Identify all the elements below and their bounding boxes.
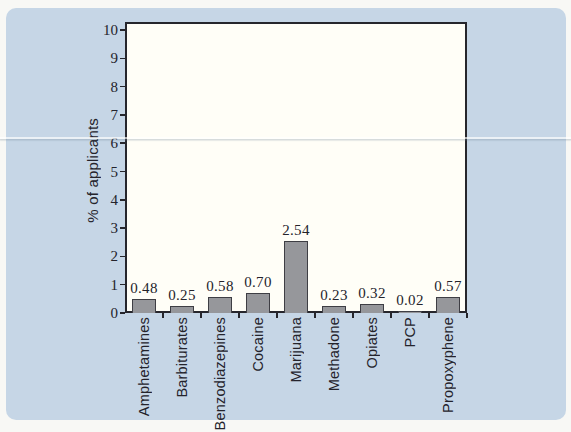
bar-value-label: 2.54	[266, 222, 326, 239]
x-tick-mark	[238, 313, 240, 318]
x-tick-mark	[314, 313, 316, 318]
category-label: Benzodiazepines	[211, 317, 229, 430]
x-tick-mark	[352, 313, 354, 318]
category-label: Opiates	[363, 317, 381, 368]
x-tick-mark	[428, 313, 430, 318]
y-tick-label: 4	[86, 190, 118, 210]
x-tick-mark	[390, 313, 392, 318]
bar	[170, 306, 194, 313]
y-tick-label: 0	[86, 303, 118, 323]
category-label: Amphetamines	[135, 317, 153, 416]
y-tick-label: 10	[86, 20, 118, 40]
x-tick-mark	[276, 313, 278, 318]
y-tick-mark	[120, 171, 126, 173]
category-label: Marijuana	[287, 317, 305, 382]
y-tick-label: 7	[86, 105, 118, 125]
bar	[322, 306, 346, 313]
y-tick-mark	[120, 312, 126, 314]
bar-value-label: 0.57	[418, 278, 478, 295]
bar	[436, 297, 460, 313]
y-tick-mark	[120, 256, 126, 258]
y-tick-mark	[120, 114, 126, 116]
category-label: PCP	[401, 317, 419, 347]
y-tick-label: 6	[86, 133, 118, 153]
x-tick-mark	[466, 313, 468, 318]
bar-value-label: 0.02	[380, 292, 440, 309]
x-tick-mark	[162, 313, 164, 318]
y-tick-mark	[120, 58, 126, 60]
bar	[246, 293, 270, 313]
category-label: Cocaine	[249, 317, 267, 372]
bar-value-label: 0.70	[228, 274, 288, 291]
y-tick-label: 8	[86, 77, 118, 97]
y-tick-mark	[120, 142, 126, 144]
category-label: Propoxyphene	[439, 317, 457, 413]
category-label: Barbiturates	[173, 317, 191, 398]
y-tick-label: 5	[86, 162, 118, 182]
y-tick-mark	[120, 227, 126, 229]
x-tick-mark	[200, 313, 202, 318]
category-label: Methadone	[325, 317, 343, 391]
y-tick-mark	[120, 199, 126, 201]
y-tick-label: 9	[86, 48, 118, 68]
y-tick-label: 3	[86, 218, 118, 238]
bar	[398, 311, 422, 313]
y-tick-mark	[120, 86, 126, 88]
y-tick-label: 2	[86, 246, 118, 266]
scanned-page: % of applicants 012345678910 0.480.250.5…	[0, 0, 571, 432]
bar	[208, 297, 232, 313]
y-tick-mark	[120, 29, 126, 31]
